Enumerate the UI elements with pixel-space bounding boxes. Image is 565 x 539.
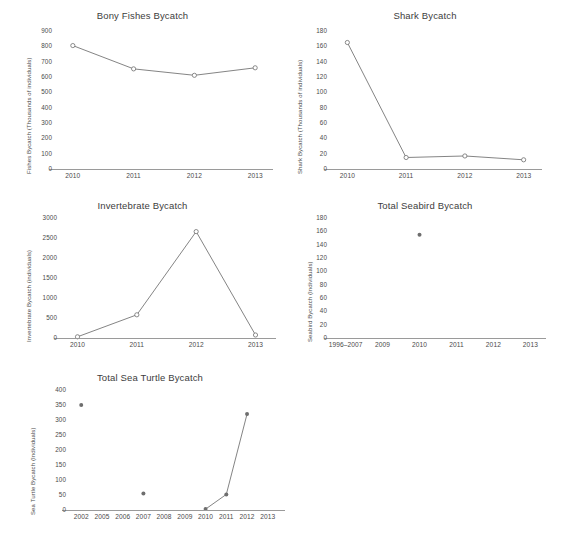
data-point-marker xyxy=(253,66,257,70)
y-tick-label: 80 xyxy=(285,104,331,111)
y-tick-label: 0 xyxy=(285,334,331,341)
x-tick-label: 2012 xyxy=(166,341,226,348)
y-tick-label: 160 xyxy=(285,227,331,234)
y-tick-label: 350 xyxy=(0,401,70,408)
x-tick-label: 2011 xyxy=(104,172,164,179)
y-tick-label: 100 xyxy=(0,150,56,157)
y-tick-label: 40 xyxy=(285,307,331,314)
y-tick-label: 0 xyxy=(285,165,331,172)
y-tick-label: 250 xyxy=(0,431,70,438)
y-tick-label: 0 xyxy=(0,334,61,341)
data-point-marker xyxy=(404,155,408,159)
y-tick-label: 60 xyxy=(285,119,331,126)
y-tick-label: 120 xyxy=(285,254,331,261)
chart-title: Invertebrate Bycatch xyxy=(0,200,285,211)
chart-title: Total Sea Turtle Bycatch xyxy=(0,372,300,383)
x-axis-line xyxy=(324,338,546,339)
data-line xyxy=(77,232,255,337)
data-point-marker xyxy=(141,492,145,496)
data-point-marker xyxy=(345,40,349,44)
y-axis-label: Sea Turtle Bycatch (Individuals) xyxy=(30,427,36,515)
y-tick-label: 180 xyxy=(285,27,331,34)
chart-title: Shark Bycatch xyxy=(285,10,565,21)
x-tick-label: 2012 xyxy=(164,172,224,179)
data-line xyxy=(73,46,255,76)
x-axis-line xyxy=(54,338,276,339)
x-tick-label: 2010 xyxy=(48,341,108,348)
data-point-marker xyxy=(132,67,136,71)
x-axis-line xyxy=(324,169,542,170)
x-tick-label: 2013 xyxy=(238,513,298,520)
x-tick-label: 2011 xyxy=(107,341,167,348)
y-tick-label: 120 xyxy=(285,73,331,80)
y-tick-label: 300 xyxy=(0,416,70,423)
y-tick-label: 0 xyxy=(0,506,70,513)
x-tick-label: 2012 xyxy=(435,172,495,179)
data-point-marker xyxy=(463,154,467,158)
y-tick-label: 200 xyxy=(0,446,70,453)
x-tick-label: 2011 xyxy=(376,172,436,179)
y-tick-label: 500 xyxy=(0,88,56,95)
y-tick-label: 50 xyxy=(0,491,70,498)
y-tick-label: 150 xyxy=(0,461,70,468)
plot-area-invertebrate xyxy=(63,218,270,338)
y-tick-label: 80 xyxy=(285,281,331,288)
y-tick-label: 500 xyxy=(0,314,61,321)
y-tick-label: 140 xyxy=(285,241,331,248)
data-point-marker xyxy=(192,73,196,77)
y-tick-label: 200 xyxy=(0,134,56,141)
plot-svg xyxy=(333,218,543,338)
plot-svg xyxy=(72,390,277,510)
chart-title: Bony Fishes Bycatch xyxy=(0,10,285,21)
data-point-marker xyxy=(79,403,83,407)
chart-panel-seabird: Total Seabird Bycatch Seabird Bycatch (I… xyxy=(285,196,565,361)
y-tick-label: 700 xyxy=(0,58,56,65)
y-tick-label: 300 xyxy=(0,119,56,126)
y-tick-label: 800 xyxy=(0,42,56,49)
y-tick-label: 40 xyxy=(285,134,331,141)
x-tick-label: 2010 xyxy=(317,172,377,179)
data-point-marker xyxy=(135,313,139,317)
y-tick-label: 160 xyxy=(285,42,331,49)
data-point-marker xyxy=(418,233,422,237)
plot-area-shark xyxy=(333,31,538,169)
y-tick-label: 0 xyxy=(0,165,56,172)
x-axis-line xyxy=(49,169,273,170)
y-tick-label: 20 xyxy=(285,321,331,328)
x-tick-label: 2013 xyxy=(500,341,560,348)
data-point-marker xyxy=(253,333,257,337)
y-tick-label: 100 xyxy=(285,267,331,274)
y-tick-label: 2000 xyxy=(0,254,61,261)
y-tick-label: 100 xyxy=(285,88,331,95)
x-tick-label: 2013 xyxy=(494,172,554,179)
x-tick-label: 2013 xyxy=(226,341,286,348)
plot-svg xyxy=(58,31,270,169)
plot-area-seabird xyxy=(333,218,543,338)
chart-panel-bony-fishes: Bony Fishes Bycatch Fishes Bycatch (Thou… xyxy=(0,6,285,186)
data-point-marker xyxy=(71,43,75,47)
plot-area-sea-turtle xyxy=(72,390,277,510)
x-tick-label: 2010 xyxy=(43,172,103,179)
y-tick-label: 3000 xyxy=(0,214,61,221)
data-point-marker xyxy=(224,492,228,496)
data-point-marker xyxy=(522,158,526,162)
y-tick-label: 2500 xyxy=(0,234,61,241)
plot-svg xyxy=(63,218,270,338)
chart-title: Total Seabird Bycatch xyxy=(285,200,565,211)
y-tick-label: 400 xyxy=(0,104,56,111)
chart-panel-invertebrate: Invertebrate Bycatch Invertebrate Bycatc… xyxy=(0,196,285,361)
y-tick-label: 600 xyxy=(0,73,56,80)
y-tick-label: 180 xyxy=(285,214,331,221)
y-tick-label: 400 xyxy=(0,386,70,393)
plot-svg xyxy=(333,31,538,169)
data-point-marker xyxy=(245,412,249,416)
x-tick-label: 2013 xyxy=(225,172,285,179)
y-tick-label: 20 xyxy=(285,150,331,157)
y-tick-label: 60 xyxy=(285,294,331,301)
x-axis-line xyxy=(62,510,285,511)
data-point-marker xyxy=(194,230,198,234)
plot-area-bony-fishes xyxy=(58,31,270,169)
y-tick-label: 140 xyxy=(285,58,331,65)
y-tick-label: 1500 xyxy=(0,274,61,281)
y-tick-label: 900 xyxy=(0,27,56,34)
